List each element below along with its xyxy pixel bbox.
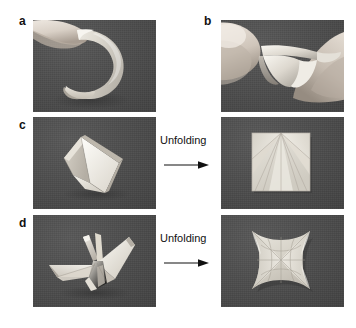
- panel-photo-b: [221, 20, 344, 112]
- panel-c-unfolded-illustration: [221, 117, 344, 209]
- panel-b-illustration: [221, 20, 344, 112]
- panel-photo-c-unfolded: [221, 117, 344, 209]
- transition-c-label: Unfolding: [160, 134, 206, 146]
- panel-photo-d-folded: [33, 215, 156, 307]
- panel-d-unfolded-illustration: [221, 215, 344, 307]
- transition-d-label: Unfolding: [160, 232, 206, 244]
- panel-photo-d-unfolded: [221, 215, 344, 307]
- panel-photo-c-folded: [33, 117, 156, 209]
- transition-d: Unfolding: [160, 232, 216, 272]
- panel-label-a: a: [19, 15, 26, 27]
- origami-unfolding-figure: a: [0, 0, 356, 328]
- panel-label-c: c: [19, 119, 26, 131]
- panel-d-crane-illustration: [33, 215, 156, 307]
- transition-c-arrow-icon: [164, 159, 210, 171]
- panel-label-d: d: [19, 217, 26, 229]
- panel-photo-a: [33, 20, 156, 112]
- panel-a-illustration: [33, 20, 156, 112]
- panel-c-folded-illustration: [33, 117, 156, 209]
- transition-c: Unfolding: [160, 134, 216, 174]
- panel-label-b: b: [204, 15, 211, 27]
- transition-d-arrow-icon: [164, 257, 210, 269]
